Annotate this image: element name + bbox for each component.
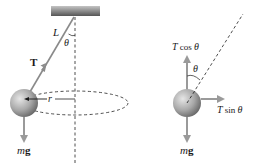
conical-pendulum-figure: L θ T r mg T cos θ θ T sin θ — [0, 0, 255, 164]
theta-label: θ — [64, 37, 69, 48]
theta-label-fbd: θ — [193, 63, 198, 74]
tsin-fn: sin — [223, 105, 238, 115]
ceiling-support — [51, 6, 100, 16]
weight-m: m — [17, 144, 25, 156]
tsin-arrowhead — [217, 95, 225, 103]
tcos-arrowhead — [183, 55, 191, 63]
weight-arrowhead — [20, 135, 28, 143]
tsin-label: T sin θ — [217, 104, 243, 115]
radius-label: r — [48, 93, 52, 104]
right-panel-free-body-diagram: T cos θ θ T sin θ mg — [172, 14, 243, 156]
tcos-theta: θ — [194, 41, 199, 52]
weight-g-fbd: g — [188, 144, 194, 156]
weight-label: mg — [17, 144, 31, 156]
string-direction-dashed — [187, 14, 243, 103]
pendulum-bob — [10, 89, 38, 117]
tcos-fn: cos — [178, 42, 195, 52]
weight-label-fbd: mg — [180, 144, 194, 156]
left-panel-conical-pendulum: L θ T r mg — [10, 6, 128, 164]
theta-arc — [69, 34, 76, 36]
weight-g: g — [25, 144, 31, 156]
tension-label: T — [30, 56, 38, 68]
length-label: L — [52, 26, 59, 38]
weight-m-fbd: m — [180, 144, 188, 156]
tsin-theta: θ — [238, 104, 243, 115]
theta-arc-fbd — [187, 75, 200, 80]
weight-arrowhead-fbd — [183, 135, 191, 143]
tcos-label: T cos θ — [172, 41, 199, 52]
